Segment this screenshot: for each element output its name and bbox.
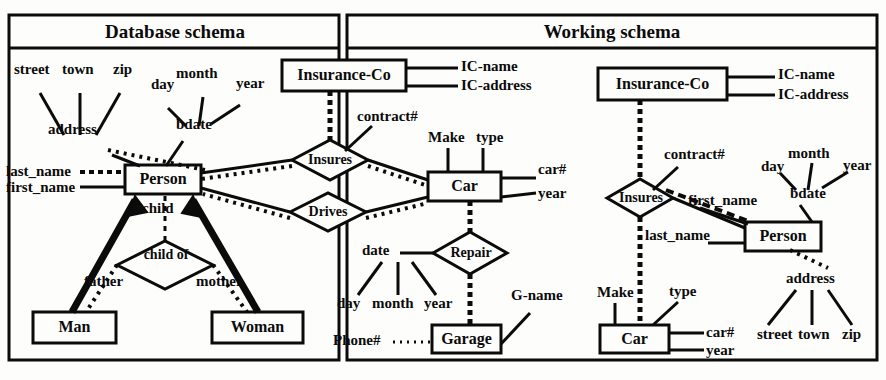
right-year-label: year (843, 158, 871, 173)
right-insurance-co-label: Insurance-Co (600, 76, 725, 92)
right-address-person-link (790, 250, 828, 268)
left-bdate-person-link (166, 141, 183, 166)
er-diagram-figure: Database schema street town zip address … (0, 0, 886, 380)
right-address-label: address (786, 271, 835, 286)
left-year-label: year (236, 76, 264, 91)
left-icaddress-label: IC-address (461, 78, 532, 93)
left-drives-person-link (201, 188, 290, 212)
right-day-label: day (761, 159, 784, 174)
right-town-label: town (798, 327, 830, 342)
left-insurance-co-label: Insurance-Co (284, 67, 404, 83)
left-ryear-connector (412, 262, 436, 295)
left-address-label: address (48, 122, 97, 137)
left-street-label: street (14, 62, 50, 77)
right-type-connector (653, 302, 678, 325)
left-rmonth-label: month (372, 296, 414, 311)
left-make-label: Make (428, 130, 465, 145)
right-type-label: type (669, 284, 697, 299)
left-zip-label: zip (113, 62, 132, 77)
right-car-label: Car (600, 331, 669, 347)
left-drives-label: Drives (296, 205, 360, 219)
left-person-label: Person (125, 171, 201, 187)
right-firstname-connector (700, 208, 748, 224)
right-contract-connector (653, 167, 678, 190)
left-insures-person-link (201, 160, 292, 173)
left-month-label: month (176, 66, 218, 81)
right-make-label: Make (597, 285, 634, 300)
left-contract-connector (345, 126, 372, 151)
left-date-label: date (362, 243, 390, 258)
left-drives-person-dotted (203, 194, 290, 218)
left-carnum-label: car# (538, 162, 566, 177)
left-year-connector (211, 105, 240, 124)
left-garage-label: Garage (432, 331, 501, 347)
left-bdate-label: bdate (176, 117, 212, 132)
left-car-label: Car (428, 178, 501, 194)
left-rday-label: day (337, 296, 360, 311)
right-contract-label: contract# (664, 147, 725, 162)
left-panel-title: Database schema (100, 22, 250, 41)
right-person-label: Person (745, 228, 821, 244)
left-day-label: day (151, 77, 174, 92)
right-icaddress-label: IC-address (778, 87, 849, 102)
right-street-connector (768, 290, 796, 325)
right-panel-title: Working schema (537, 22, 687, 41)
left-caryear-connector (501, 193, 536, 197)
left-repair-label: Repair (440, 246, 502, 260)
left-woman-person-isa (193, 200, 258, 312)
right-insures-label: Insures (609, 191, 673, 205)
right-carnum-label: car# (706, 325, 734, 340)
right-caryear-label: year (706, 343, 734, 358)
left-man-person-isa (72, 200, 135, 312)
right-lastname-label: last_name (645, 228, 710, 243)
right-firstname-label: first_name (688, 193, 757, 208)
left-child-role-label: child (142, 201, 174, 216)
left-type-label: type (476, 130, 504, 145)
left-lastname-label: last_name (6, 164, 71, 179)
left-caryear-label: year (538, 186, 566, 201)
right-bdate-person-link (800, 205, 812, 222)
left-insures-label: Insures (298, 153, 362, 167)
right-month-label: month (788, 146, 830, 161)
left-child-of-label: child of (131, 248, 201, 262)
right-bdate-label: bdate (790, 186, 826, 201)
left-town-label: town (62, 62, 94, 77)
left-gname-connector (501, 313, 530, 344)
left-contract-label: contract# (357, 109, 418, 124)
left-ryear-label: year (424, 296, 452, 311)
right-zip-label: zip (842, 327, 861, 342)
left-icname-label: IC-name (461, 59, 518, 74)
left-firstname-label: first_name (6, 180, 75, 195)
left-gname-label: G-name (511, 288, 563, 303)
right-icname-label: IC-name (778, 67, 835, 82)
left-mother-role-label: mother (196, 274, 243, 289)
left-woman-label: Woman (212, 319, 303, 335)
right-zip-connector (828, 290, 852, 325)
left-father-role-label: father (84, 274, 123, 289)
left-man-label: Man (33, 319, 116, 335)
left-zip-connector (96, 93, 120, 135)
right-street-label: street (757, 327, 793, 342)
left-rday-connector (358, 262, 382, 295)
left-phone-label: Phone# (333, 333, 381, 348)
